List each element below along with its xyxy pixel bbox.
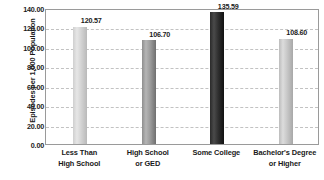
bar[interactable]	[142, 40, 156, 144]
y-axis-tick-label: 0.00	[11, 141, 44, 150]
y-axis-tick-label: 60.00	[11, 82, 44, 91]
bar-slot: 135.59	[183, 10, 252, 144]
bar-chart: Episodes per 1,000 Population 0.0020.004…	[0, 0, 324, 180]
x-axis-label-line: High School	[114, 148, 183, 159]
y-axis-tick-labels: 0.0020.0040.0060.0080.00100.00120.00140.…	[11, 0, 44, 180]
bars-layer: 120.57106.70135.59108.60	[46, 10, 318, 144]
y-axis-tick-label: 40.00	[11, 102, 44, 111]
x-axis-label-line: High School	[45, 159, 114, 170]
x-axis-tick-label: Less ThanHigh School	[45, 148, 114, 169]
bar-slot: 106.70	[115, 10, 184, 144]
y-axis-tick-label: 100.00	[11, 43, 44, 52]
x-axis-label-line: Less Than	[45, 148, 114, 159]
x-axis-label-line: Bachelor's Degree	[251, 148, 320, 159]
x-axis-tick-label: Some College	[182, 148, 251, 159]
plot-area: 120.57106.70135.59108.60	[45, 9, 319, 145]
x-axis-label-line: or Higher	[251, 159, 320, 170]
y-axis-tick-label: 80.00	[11, 63, 44, 72]
bar-slot: 120.57	[46, 10, 115, 144]
bar-value-label: 108.60	[286, 28, 307, 37]
x-axis-tick-labels: Less ThanHigh SchoolHigh Schoolor GEDSom…	[45, 148, 319, 180]
bar-slot: 108.60	[252, 10, 321, 144]
bar[interactable]	[210, 12, 224, 144]
bar-value-label: 120.57	[81, 16, 102, 25]
x-axis-label-line: or GED	[114, 159, 183, 170]
bar-value-label: 135.59	[218, 2, 239, 11]
x-axis-tick-label: High Schoolor GED	[114, 148, 183, 169]
y-axis-tick-label: 120.00	[11, 24, 44, 33]
bar[interactable]	[73, 27, 87, 144]
x-axis-tick-label: Bachelor's Degreeor Higher	[251, 148, 320, 169]
y-axis-tick-label: 140.00	[11, 5, 44, 14]
y-axis-tick-label: 20.00	[11, 121, 44, 130]
bar-value-label: 106.70	[149, 30, 170, 39]
bar[interactable]	[279, 39, 293, 144]
x-axis-label-line: Some College	[182, 148, 251, 159]
